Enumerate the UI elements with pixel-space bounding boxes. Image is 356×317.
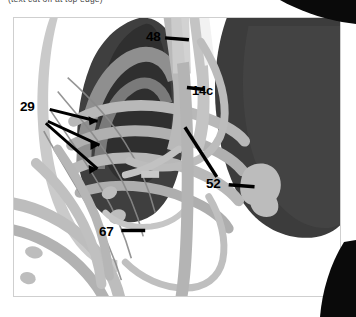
figure-caption: (text cut off at top edge) xyxy=(8,0,258,6)
hilar-blob xyxy=(240,163,281,216)
figure-frame xyxy=(13,17,341,297)
leader-48 xyxy=(165,38,189,40)
label-29: 29 xyxy=(20,100,35,114)
label-67: 67 xyxy=(99,225,114,239)
label-48: 48 xyxy=(146,30,161,44)
label-14c: 14c xyxy=(192,84,213,97)
label-52: 52 xyxy=(206,177,221,191)
band-notch xyxy=(141,171,159,178)
anatomical-illustration xyxy=(14,18,340,296)
page-root: (text cut off at top edge) xyxy=(0,0,356,317)
